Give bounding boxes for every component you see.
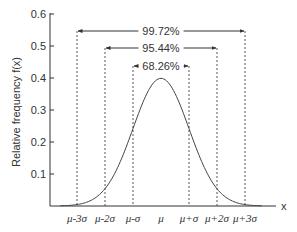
normal-distribution-chart: Relative frequency f(x) 68.26%95.44%99.7… — [0, 0, 297, 232]
y-tick-labels: 0.10.20.30.40.50.6 — [31, 8, 46, 180]
y-axis-label: Relative frequency f(x) — [10, 57, 22, 167]
percentage-label: 99.72% — [142, 25, 180, 37]
y-tick-label: 0.4 — [31, 72, 46, 84]
x-tick-label: μ-σ — [125, 212, 141, 224]
y-tick-label: 0.6 — [31, 8, 46, 20]
x-tick-labels: μ-3σμ-2σμ-σμμ+σμ+2σμ+3σ — [66, 212, 258, 224]
percentage-label: 95.44% — [142, 42, 180, 54]
x-tick-label: μ-3σ — [66, 212, 88, 224]
sigma-dashed-lines — [77, 31, 245, 206]
x-tick-label: μ+3σ — [232, 212, 257, 224]
x-axis-label: x — [281, 200, 287, 212]
x-tick-label: μ+2σ — [204, 212, 229, 224]
percentage-annotations: 68.26%95.44%99.72% — [78, 25, 244, 72]
y-tick-label: 0.2 — [31, 136, 46, 148]
y-tick-label: 0.3 — [31, 104, 46, 116]
y-tick-label: 0.1 — [31, 168, 46, 180]
percentage-label: 68.26% — [142, 60, 180, 72]
x-tick-label: μ+σ — [179, 212, 199, 224]
y-tick-label: 0.5 — [31, 40, 46, 52]
bell-curve — [60, 78, 262, 205]
svg-text:Relative frequency f(x): Relative frequency f(x) — [10, 57, 22, 167]
x-tick-label: μ-2σ — [94, 212, 116, 224]
x-tick-label: μ — [157, 212, 164, 224]
